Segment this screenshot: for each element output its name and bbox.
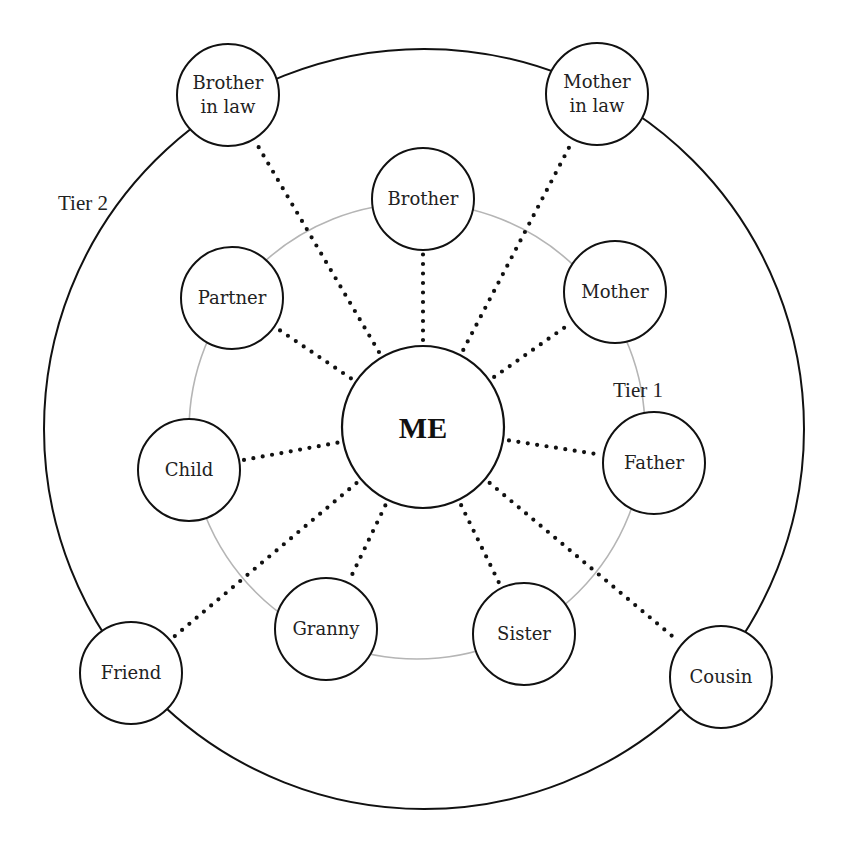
connector-mother-in-law	[463, 143, 571, 350]
node-label: Child	[165, 459, 213, 480]
node-partner: Partner	[181, 247, 283, 349]
connector-father	[509, 440, 600, 454]
node-brother: Brother	[372, 148, 474, 250]
node-sister: Sister	[473, 583, 575, 685]
center-node-me: ME	[342, 346, 504, 508]
node-label: Partner	[198, 287, 267, 308]
connector-granny	[350, 505, 386, 579]
node-label: in law	[570, 95, 626, 116]
node-circle	[546, 43, 648, 145]
node-label: Friend	[101, 662, 162, 683]
node-child: Child	[138, 419, 240, 521]
node-label: in law	[201, 96, 257, 117]
connector-sister	[461, 505, 500, 584]
node-label: Cousin	[690, 666, 753, 687]
node-label: Sister	[497, 623, 551, 644]
node-mother: Mother	[564, 241, 666, 343]
node-label: Granny	[292, 618, 360, 639]
node-brother-in-law: Brotherin law	[177, 44, 279, 146]
connector-mother	[494, 324, 570, 377]
node-circle	[177, 44, 279, 146]
node-label: Brother	[193, 72, 264, 93]
node-cousin: Cousin	[670, 626, 772, 728]
tier-2-label: Tier 2	[58, 191, 108, 215]
connector-partner	[278, 329, 351, 379]
node-label: Mother	[563, 71, 631, 92]
me-label: ME	[399, 411, 447, 444]
node-father: Father	[603, 412, 705, 514]
connector-child	[243, 443, 337, 460]
node-label: Father	[624, 452, 684, 473]
node-label: Brother	[388, 188, 459, 209]
node-granny: Granny	[275, 578, 377, 680]
node-mother-in-law: Motherin law	[546, 43, 648, 145]
relationship-diagram: BrotherMotherFatherSisterGrannyChildPart…	[0, 0, 843, 858]
node-label: Mother	[581, 281, 649, 302]
node-friend: Friend	[80, 622, 182, 724]
tier-1-label: Tier 1	[613, 378, 663, 402]
